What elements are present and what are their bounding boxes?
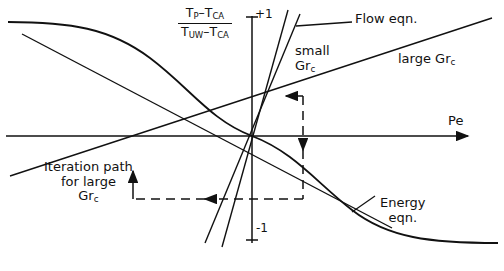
energy-eqn-line2: eqn.: [388, 210, 417, 225]
y-tick-label-plus-one: +1: [255, 8, 273, 21]
y-tick-label-minus-one: -1: [256, 222, 268, 235]
x-axis-label-pe: Pe: [448, 114, 463, 129]
small-grc-label: small Grc: [295, 44, 330, 75]
diagram-svg: [0, 0, 504, 271]
energy-eqn-leader: [352, 196, 375, 212]
energy-eqn-label: Energy eqn.: [380, 196, 426, 225]
large-grc-line: [10, 18, 492, 176]
iteration-line3: Grc: [78, 188, 98, 203]
small-grc-line: [222, 10, 288, 247]
small-grc-line1: small: [295, 43, 330, 58]
y-axis-fraction: TP–TCA TUW–TCA: [178, 6, 232, 41]
large-grc-label: large Grc: [398, 52, 455, 68]
iteration-line2: for large: [61, 174, 116, 189]
fraction-denominator: TUW–TCA: [178, 24, 232, 41]
fraction-numerator: TP–TCA: [178, 6, 232, 24]
small-grc-line2: Grc: [295, 58, 315, 73]
energy-eqn-line1: Energy: [380, 195, 426, 210]
iteration-path-label: Iteration path for large Grc: [44, 160, 133, 205]
diagram-canvas: TP–TCA TUW–TCA +1 -1 Pe Flow eqn. small …: [0, 0, 504, 271]
y-axis-label: TP–TCA TUW–TCA: [178, 6, 232, 41]
iteration-line1: Iteration path: [44, 159, 133, 174]
flow-eqn-leader: [296, 22, 352, 26]
flow-eqn-label: Flow eqn.: [355, 12, 417, 27]
